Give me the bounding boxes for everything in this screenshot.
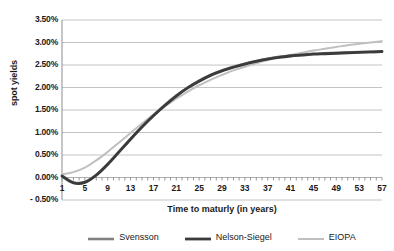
legend-label: Svensson [119, 232, 159, 242]
x-tick-label: 13 [122, 183, 140, 193]
legend-item-svensson[interactable]: Svensson [88, 228, 159, 246]
x-tick-label: 17 [144, 183, 162, 193]
legend-label: EIOPA [329, 232, 356, 242]
series-line-eiopa [62, 41, 382, 174]
legend-swatch [298, 228, 324, 246]
x-tick-label: 45 [304, 183, 322, 193]
legend-item-eiopa[interactable]: EIOPA [298, 228, 356, 246]
legend-swatch [88, 228, 114, 246]
x-tick-label: 33 [236, 183, 254, 193]
x-tick-label: 25 [190, 183, 208, 193]
chart-legend: SvenssonNelson-SiegelEIOPA [62, 228, 382, 246]
x-tick-label: 1 [53, 183, 71, 193]
legend-item-nelson-siegel[interactable]: Nelson-Siegel [185, 228, 272, 246]
legend-label: Nelson-Siegel [216, 232, 272, 242]
legend-swatch [185, 228, 211, 246]
x-tick-label: 21 [167, 183, 185, 193]
x-tick-label: 41 [282, 183, 300, 193]
x-tick-label: 49 [327, 183, 345, 193]
x-tick-label: 37 [259, 183, 277, 193]
series-line-nelson-siegel [62, 52, 382, 184]
x-tick-label: 9 [99, 183, 117, 193]
x-tick-label: 29 [213, 183, 231, 193]
x-tick-label: 5 [76, 183, 94, 193]
spot-yield-curve-chart: spot yields 3.50%3.00%2.50%2.00%1.50%1.0… [0, 0, 394, 251]
x-tick-label: 53 [350, 183, 368, 193]
x-tick-label: 57 [373, 183, 391, 193]
x-axis-title: Time to maturly (in years) [62, 204, 382, 214]
